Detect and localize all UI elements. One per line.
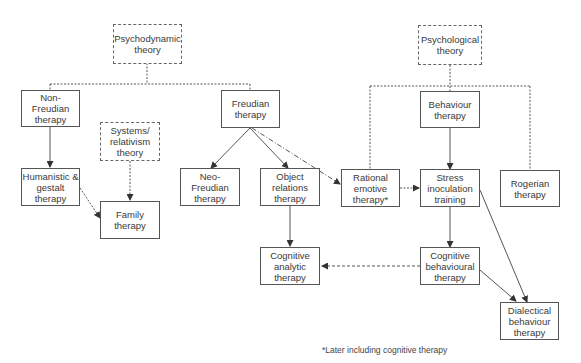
edge-humanistic-family xyxy=(80,188,100,218)
node-non-freudian-therapy: Non-Freudian therapy xyxy=(21,90,80,127)
node-systems-relativism-theory: Systems/ relativism theory xyxy=(100,122,160,161)
edge-psychodynamic-branches xyxy=(50,63,250,90)
node-stress-inoculation-training: Stress inoculation training xyxy=(420,169,480,207)
node-family-therapy: Family therapy xyxy=(100,201,160,239)
node-dialectical-behaviour-therapy: Dialectical behaviour therapy xyxy=(500,302,559,340)
node-cognitive-behavioural-therapy: Cognitive behavioural therapy xyxy=(420,247,480,285)
node-psychodynamic-theory: Psychodynamic theory xyxy=(113,24,182,64)
edge-cbt-dialectical xyxy=(480,270,516,301)
node-rogerian-therapy: Rogerian therapy xyxy=(500,170,560,207)
node-cognitive-analytic-therapy: Cognitive analytic therapy xyxy=(260,247,320,285)
node-humanistic-gestalt-therapy: Humanistic & gestalt therapy xyxy=(21,168,80,206)
node-freudian-therapy: Freudian therapy xyxy=(221,90,280,128)
node-neo-freudian-therapy: Neo-Freudian therapy xyxy=(180,168,240,206)
edge-freudian-neofreudian xyxy=(211,128,250,168)
node-object-relations-therapy: Object relations therapy xyxy=(260,168,320,206)
footnote: *Later including cognitive therapy xyxy=(322,345,447,355)
node-psychological-theory: Psychological theory xyxy=(418,25,482,65)
node-rational-emotive-therapy: Rational emotive therapy* xyxy=(341,169,400,207)
edge-freudian-objectrelations xyxy=(250,128,288,168)
node-behaviour-therapy: Behaviour therapy xyxy=(420,91,480,128)
